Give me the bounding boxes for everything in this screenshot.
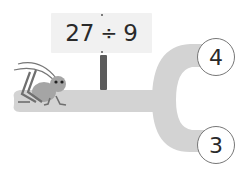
sign-post — [100, 55, 107, 90]
cricket-icon — [10, 58, 70, 108]
answer-label: 3 — [209, 133, 223, 158]
dividend: 27 — [65, 20, 94, 46]
division-operator: ÷ — [100, 21, 117, 45]
division-path-puzzle: 27 ÷ 9 4 3 — [0, 0, 249, 178]
problem-sign: 27 ÷ 9 — [51, 13, 152, 53]
answer-option-top[interactable]: 4 — [197, 38, 235, 76]
answer-option-bottom[interactable]: 3 — [197, 126, 235, 164]
answer-label: 4 — [209, 45, 223, 70]
sign-nail-bottom — [101, 51, 103, 53]
divisor: 9 — [123, 20, 138, 46]
sign-nail-top — [101, 14, 103, 16]
